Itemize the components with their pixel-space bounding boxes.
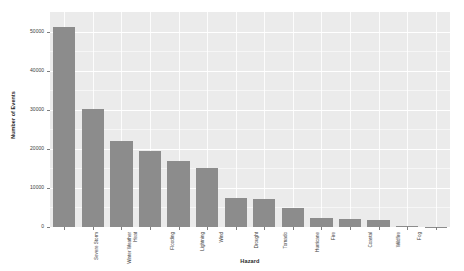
bar [367,220,389,227]
x-axis-tick [121,227,122,230]
y-axis-tick-label: 0 [16,224,44,229]
x-axis-tick [150,227,151,230]
bar [167,161,189,227]
x-axis-tick-label: Wind [220,232,225,242]
y-axis-tick-label-wrap: 30000 [0,107,44,113]
x-axis-tick [236,227,237,230]
x-axis-tick-label: Flooding [170,232,175,250]
x-axis-title: Hazard [50,258,450,264]
bar [339,219,361,227]
x-axis-tick [207,227,208,230]
y-axis-tick-label: 20000 [16,146,44,151]
x-axis-tick-label: Tornado [283,232,288,249]
bar [282,208,304,227]
bar-chart: Number of Events 01000020000300004000050… [0,0,464,271]
bar [196,168,218,227]
x-axis-tick-label: Hurricane [315,232,320,252]
x-axis-tick [293,227,294,230]
x-axis-tick [264,227,265,230]
bar [139,151,161,227]
bar-series [50,12,450,227]
x-axis-tick [64,227,65,230]
x-axis-tick-label: Wildfire [396,232,401,247]
x-axis-tick [407,227,408,230]
y-axis-tick-label-wrap: 10000 [0,185,44,191]
x-axis-tick-label: Drought [254,232,259,248]
bar [82,109,104,227]
y-axis: 01000020000300004000050000 [0,0,50,271]
y-axis-tick-label-wrap: 0 [0,224,44,230]
y-axis-tick-label-wrap: 50000 [0,29,44,35]
x-axis-tick-label: Lightning [199,232,204,251]
bar [253,199,275,227]
bar [53,27,75,227]
x-axis-tick-label: Coastal [368,232,373,248]
x-axis: Severe StormWinter WeatherHeatFloodingLi… [50,227,450,271]
x-axis-tick-label: Fire [331,232,336,240]
x-axis-tick [179,227,180,230]
x-axis-tick [436,227,437,230]
y-axis-tick-label: 30000 [16,107,44,112]
y-axis-tick-label: 50000 [16,29,44,34]
x-axis-tick-label: Heat [133,232,138,242]
y-axis-tick-label-wrap: 40000 [0,68,44,74]
x-axis-tick [350,227,351,230]
x-axis-tick [93,227,94,230]
x-axis-tick [321,227,322,230]
x-axis-tick-label: Severe Storm [94,232,99,260]
x-axis-tick [379,227,380,230]
bar [225,198,247,227]
bar [310,218,332,227]
y-axis-tick-label: 40000 [16,68,44,73]
y-axis-tick-label: 10000 [16,185,44,190]
y-axis-tick-label-wrap: 20000 [0,146,44,152]
plot-panel [50,12,450,227]
x-axis-tick-label: Fog [417,232,422,240]
bar [110,141,132,227]
